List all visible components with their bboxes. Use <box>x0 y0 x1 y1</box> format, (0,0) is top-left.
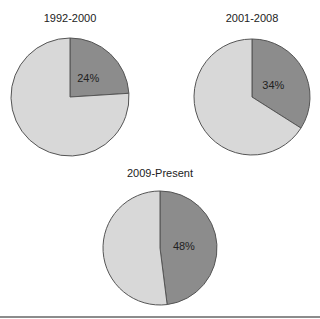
slice-label: 24% <box>77 72 99 84</box>
pie-slice <box>70 38 129 97</box>
slice-label: 48% <box>173 240 195 252</box>
pie-2001-2008: 34% <box>194 39 310 155</box>
slice-label: 34% <box>262 79 284 91</box>
bottom-divider <box>0 316 320 318</box>
pie-charts: 24%34%48% <box>0 0 320 319</box>
pie-slice <box>103 191 167 305</box>
pie-1992-2000: 24% <box>11 38 129 156</box>
pie-2009-present: 48% <box>103 191 217 305</box>
